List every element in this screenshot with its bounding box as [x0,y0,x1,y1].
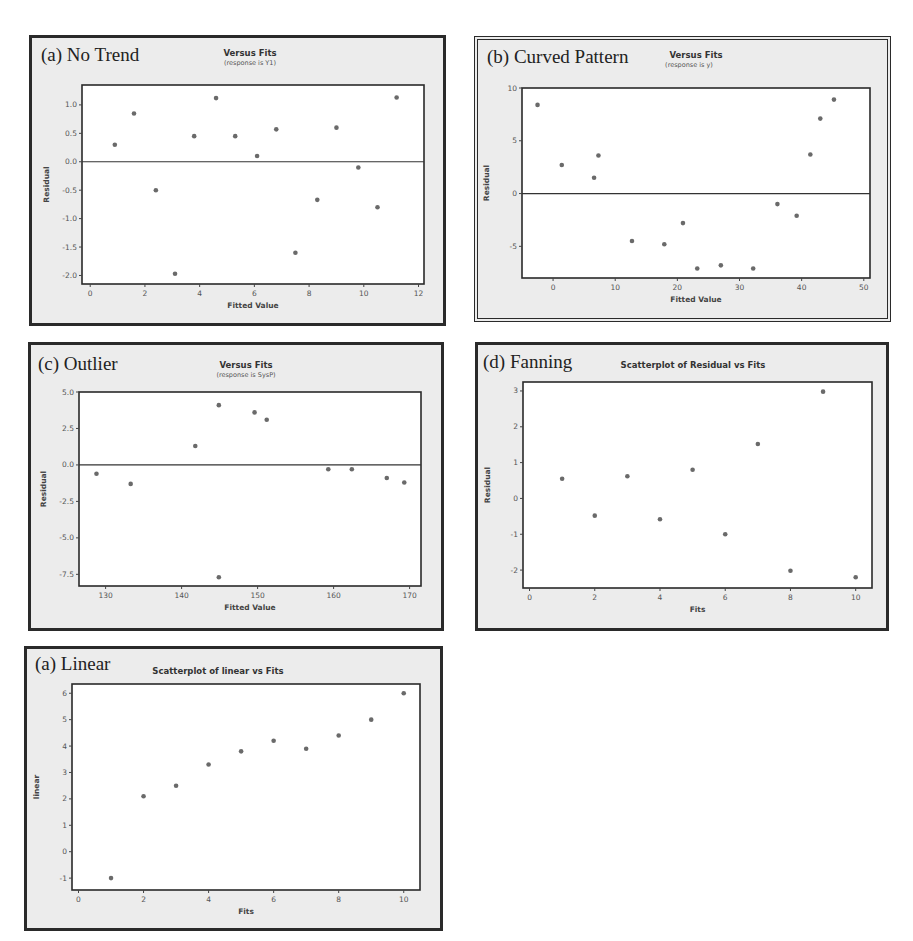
x-axis-label: Fitted Value [670,295,721,304]
data-point [304,746,309,751]
y-axis-label: Residual [483,467,492,503]
x-tick-label: 10 [359,289,369,298]
y-tick-label: 6 [62,689,67,698]
data-point [402,480,407,485]
x-axis-label: Fits [238,907,254,916]
x-tick-label: 2 [143,289,148,298]
x-tick-label: 0 [76,895,81,904]
data-point [255,154,260,159]
data-point [832,97,837,102]
data-point [233,134,238,139]
x-tick-label: 20 [673,283,683,292]
x-axis-label: Fitted Value [224,603,275,612]
y-tick-label: 3 [513,386,518,395]
x-tick-label: 8 [788,593,793,602]
y-tick-label: 0 [512,189,517,198]
x-axis-label: Fitted Value [227,301,278,310]
data-point [658,517,663,522]
scatter-plot: 02468103210-1-2FitsResidual [478,345,892,634]
x-tick-label: 10 [851,593,861,602]
data-point [630,239,635,244]
data-point [560,476,565,481]
x-tick-label: 2 [141,895,146,904]
x-tick-label: 140 [174,591,189,600]
data-point [592,175,597,180]
data-point [264,417,269,422]
data-point [128,482,133,487]
x-tick-label: 0 [551,283,556,292]
y-axis-label: Residual [42,166,51,202]
y-tick-label: 0 [62,847,67,856]
x-tick-label: 6 [723,593,728,602]
y-tick-label: 0.5 [65,129,77,138]
y-tick-label: -1.0 [62,214,77,223]
data-point [141,794,146,799]
y-tick-label: -2.5 [59,497,74,506]
data-point [132,111,137,116]
y-tick-label: 0.0 [62,460,74,469]
plot-area [79,392,421,586]
data-point [356,165,361,170]
y-tick-label: -1.5 [62,243,77,252]
data-point [592,513,597,518]
x-tick-label: 10 [399,895,409,904]
x-tick-label: 0 [88,289,93,298]
data-point [756,442,761,447]
y-tick-label: 2 [513,422,518,431]
x-tick-label: 8 [336,895,341,904]
data-point [274,127,279,132]
plot-area [72,684,420,890]
data-point [336,733,341,738]
data-point [154,188,159,193]
y-tick-label: 5 [512,136,517,145]
data-point [681,221,686,226]
data-point [401,691,406,696]
data-point [293,250,298,255]
data-point [394,95,399,100]
panel-curved-pattern: (b) Curved Pattern Versus Fits (response… [474,36,891,322]
y-tick-label: 5.0 [62,388,74,397]
x-tick-label: 6 [252,289,257,298]
y-tick-label: 0.0 [65,157,77,166]
y-tick-label: 2.5 [62,424,74,433]
y-tick-label: -0.5 [62,186,77,195]
data-point [109,876,114,881]
data-point [214,96,219,101]
x-tick-label: 40 [797,283,807,292]
y-tick-label: -2 [511,566,519,575]
y-tick-label: 1 [62,821,67,830]
y-tick-label: 2 [62,794,67,803]
x-axis-label: Fits [690,605,706,614]
data-point [808,152,813,157]
x-tick-label: 150 [250,591,265,600]
data-point [794,213,799,218]
data-point [315,198,320,203]
plot-area [523,382,872,588]
y-tick-label: 0 [513,494,518,503]
data-point [326,467,331,472]
panel-no-trend: (a) No Trend Versus Fits (response is Y1… [29,35,446,326]
x-tick-label: 170 [402,591,417,600]
data-point [239,749,244,754]
data-point [775,202,780,207]
data-point [271,738,276,743]
data-point [94,471,99,476]
data-point [369,717,374,722]
data-point [535,103,540,108]
data-point [690,467,695,472]
data-point [559,163,564,168]
x-tick-label: 4 [197,289,202,298]
data-point [385,476,390,481]
data-point [662,242,667,247]
scatter-plot: 1301401501601705.02.50.0-2.5-5.0-7.5Fitt… [31,345,447,634]
x-tick-label: 30 [735,283,745,292]
data-point [334,125,339,130]
data-point [173,271,178,276]
data-point [625,474,630,479]
y-tick-label: -2.0 [62,271,77,280]
y-tick-label: -7.5 [59,570,74,579]
data-point [252,410,257,415]
x-tick-label: 10 [610,283,620,292]
data-point [719,263,724,268]
data-point [818,116,823,121]
